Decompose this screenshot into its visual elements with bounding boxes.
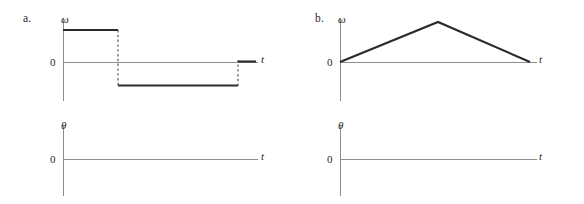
panel-a: a. ω t 0 θ t 0 — [0, 0, 292, 204]
panel-b-theta-y-label: θ — [338, 120, 343, 131]
panel-a-theta-origin-label: 0 — [50, 154, 56, 165]
panel-b-theta-plot — [292, 0, 584, 204]
panel-a-theta-x-label: t — [261, 151, 264, 162]
panel-a-theta-plot — [0, 0, 292, 204]
figure-root: a. ω t 0 θ t 0 b. — [0, 0, 584, 204]
panel-b-theta-origin-label: 0 — [327, 154, 333, 165]
panel-a-theta-y-label: θ — [61, 120, 66, 131]
panel-b-theta-x-label: t — [539, 151, 542, 162]
panel-b: b. ω t 0 θ t 0 — [292, 0, 584, 204]
